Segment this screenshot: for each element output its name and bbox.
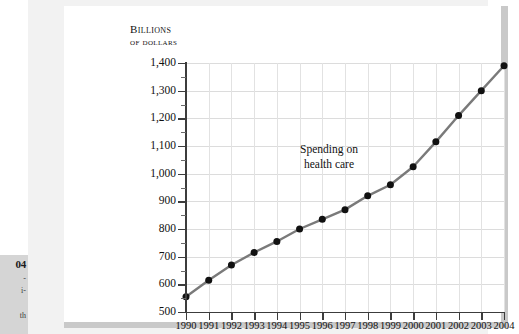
y-axis-tick [178, 284, 186, 285]
y-axis-tick [178, 146, 186, 147]
data-point-marker [478, 87, 485, 94]
y-axis-minor-tick [181, 243, 186, 244]
data-point-marker [319, 216, 326, 223]
y-axis-tick [178, 91, 186, 92]
y-axis-label-slot: 1,300 [110, 84, 176, 98]
y-axis-tick-label: 900 [114, 194, 176, 206]
y-axis-label-slot: 1,200 [110, 111, 176, 125]
data-point-marker [273, 238, 280, 245]
y-axis-minor-tick [181, 298, 186, 299]
y-axis-minor-tick [181, 271, 186, 272]
x-axis-tick [277, 313, 278, 320]
data-point-marker [342, 206, 349, 213]
data-point-marker [387, 181, 394, 188]
x-axis-tick [209, 313, 210, 320]
x-axis-tick-label: 2004 [484, 320, 519, 331]
sidebar-caption-strip: 04 - i- th [0, 255, 28, 334]
y-axis-label-slot: 800 [110, 222, 176, 236]
figure-frame: Billions of dollars 1,4001,3001,2001,100… [28, 0, 488, 334]
caption-fragment-1: - [0, 273, 26, 285]
caption-number: 04 [0, 257, 26, 273]
y-axis-tick-label: 1,400 [114, 56, 176, 68]
plot-area [186, 63, 504, 312]
y-axis-minor-tick [181, 77, 186, 78]
y-axis-tick [178, 63, 186, 64]
y-axis-minor-tick [181, 105, 186, 106]
data-point-marker [364, 192, 371, 199]
data-point-marker [410, 163, 417, 170]
y-axis-label-slot: 1,400 [110, 56, 176, 70]
data-point-marker [205, 277, 212, 284]
x-axis-tick [231, 313, 232, 320]
x-axis-tick [300, 313, 301, 320]
annotation-line2: health care [274, 157, 384, 172]
y-axis-minor-tick [181, 160, 186, 161]
y-axis-title-line2: of dollars [130, 36, 177, 49]
annotation-line1: Spending on [274, 142, 384, 157]
x-axis-tick [459, 313, 460, 320]
x-axis-tick [413, 313, 414, 320]
y-axis-tick-label: 1,100 [114, 139, 176, 151]
y-axis-tick [178, 257, 186, 258]
y-axis-tick-label: 1,200 [114, 111, 176, 123]
y-axis-tick [178, 201, 186, 202]
x-axis-tick [345, 313, 346, 320]
y-axis-label-slot: 1,100 [110, 139, 176, 153]
y-axis-tick [178, 312, 186, 313]
sidebar-caption: 04 - i- th [0, 257, 26, 322]
x-axis-tick [322, 313, 323, 320]
y-axis-tick-label: 800 [114, 222, 176, 234]
y-axis-tick [178, 118, 186, 119]
x-axis-tick [368, 313, 369, 320]
y-axis-tick [178, 229, 186, 230]
data-point-marker [501, 62, 508, 69]
x-axis-tick [254, 313, 255, 320]
data-point-marker [251, 249, 258, 256]
series-line-chart [186, 63, 504, 312]
y-axis-title: Billions of dollars [130, 22, 177, 49]
caption-fragment-2: i- [0, 285, 26, 297]
gridline-vertical [504, 63, 505, 312]
y-axis-tick-label: 1,300 [114, 84, 176, 96]
y-axis-minor-tick [181, 215, 186, 216]
series-line [186, 66, 504, 297]
caption-fragment-3: th [0, 310, 26, 322]
y-axis-tick-label: 1,000 [114, 167, 176, 179]
y-axis-tick-label: 600 [114, 277, 176, 289]
data-point-marker [228, 261, 235, 268]
x-axis-tick [481, 313, 482, 320]
y-axis-label-slot: 1,000 [110, 167, 176, 181]
y-axis-tick-label: 700 [114, 250, 176, 262]
x-axis-tick [390, 313, 391, 320]
y-axis-label-slot: 700 [110, 250, 176, 264]
figure-panel: Billions of dollars 1,4001,3001,2001,100… [64, 6, 501, 322]
data-point-marker [432, 138, 439, 145]
y-axis-tick-label: 500 [114, 305, 176, 317]
y-axis-minor-tick [181, 132, 186, 133]
data-point-marker [455, 112, 462, 119]
series-annotation: Spending on health care [274, 142, 384, 172]
y-axis-label-slot: 600 [110, 277, 176, 291]
data-point-marker [296, 226, 303, 233]
y-axis-tick [178, 174, 186, 175]
x-axis-tick [504, 313, 505, 320]
y-axis-label-slot: 500 [110, 305, 176, 319]
x-axis-tick [436, 313, 437, 320]
x-axis-tick [186, 313, 187, 320]
y-axis-label-slot: 900 [110, 194, 176, 208]
y-axis-minor-tick [181, 188, 186, 189]
y-axis-title-line1: Billions [130, 22, 177, 36]
